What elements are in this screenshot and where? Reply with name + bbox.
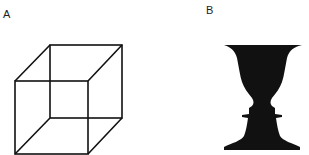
cube-edge [88, 45, 122, 81]
cube-edge [88, 118, 122, 154]
cube-edge [15, 118, 50, 154]
necker-cube-figure [15, 45, 122, 154]
vase-silhouette [224, 45, 302, 150]
cube-edge [15, 45, 50, 81]
rubin-vase-figure [224, 45, 302, 150]
figure-canvas [0, 0, 309, 155]
